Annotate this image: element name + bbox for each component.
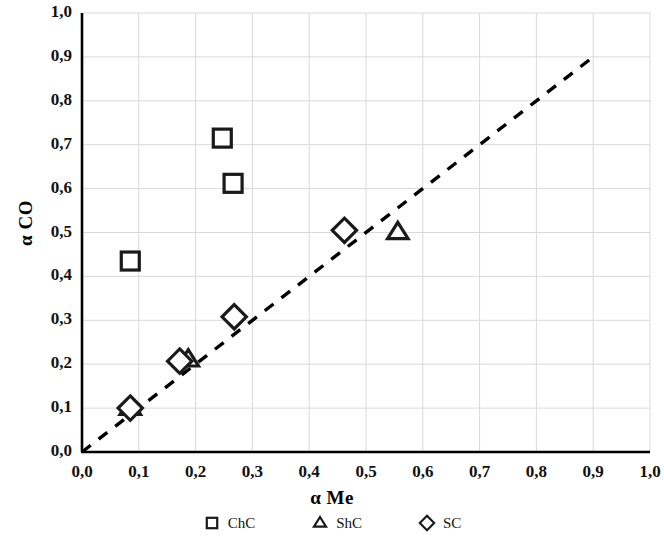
scatter-chart: α CO α Me 0,00,10,20,30,40,50,60,70,80,9… [0, 0, 664, 540]
data-markers [118, 129, 408, 420]
marker-square [213, 129, 231, 147]
parity-reference-line [82, 57, 593, 452]
x-tick-label: 0,1 [111, 462, 167, 482]
plot-area [0, 0, 664, 540]
x-tick-label: 0,3 [224, 462, 280, 482]
marker-square [121, 252, 139, 270]
series-ShC [120, 222, 408, 414]
y-tick-label: 1,0 [16, 2, 72, 22]
x-tick-label: 0,5 [338, 462, 394, 482]
y-tick-label: 0,3 [16, 309, 72, 329]
x-tick-label: 1,0 [622, 462, 664, 482]
legend-item-sc[interactable]: SC [418, 514, 461, 532]
marker-triangle [388, 222, 409, 238]
marker-square [206, 518, 216, 528]
legend-marker-diamond-icon [418, 514, 436, 532]
chart-legend: ChCShCSC [0, 514, 664, 532]
legend-label: ChC [228, 515, 256, 532]
y-tick-label: 0,6 [16, 178, 72, 198]
x-tick-label: 0,8 [508, 462, 564, 482]
marker-diamond [332, 218, 356, 242]
y-tick-label: 0,9 [16, 46, 72, 66]
legend-item-shc[interactable]: ShC [311, 514, 362, 532]
parity-line [82, 57, 593, 452]
marker-triangle [314, 517, 326, 527]
y-tick-label: 0,2 [16, 353, 72, 373]
x-tick-label: 0,2 [168, 462, 224, 482]
marker-diamond [420, 516, 434, 530]
y-tick-label: 0,8 [16, 90, 72, 110]
series-SC [118, 218, 356, 420]
legend-item-chc[interactable]: ChC [203, 514, 256, 532]
x-tick-label: 0,9 [565, 462, 621, 482]
x-tick-label: 0,7 [452, 462, 508, 482]
y-tick-label: 0,0 [16, 441, 72, 461]
x-tick-label: 0,0 [54, 462, 110, 482]
x-tick-label: 0,6 [395, 462, 451, 482]
marker-square [224, 174, 242, 192]
y-tick-label: 0,1 [16, 397, 72, 417]
legend-label: ShC [336, 515, 362, 532]
legend-marker-triangle-icon [311, 514, 329, 532]
x-tick-label: 0,4 [281, 462, 337, 482]
legend-marker-square-icon [203, 514, 221, 532]
marker-diamond [222, 305, 246, 329]
x-axis-title: α Me [0, 487, 664, 509]
series-ChC [121, 129, 242, 270]
y-tick-label: 0,5 [16, 222, 72, 242]
y-tick-label: 0,4 [16, 265, 72, 285]
y-tick-label: 0,7 [16, 134, 72, 154]
legend-label: SC [443, 515, 461, 532]
